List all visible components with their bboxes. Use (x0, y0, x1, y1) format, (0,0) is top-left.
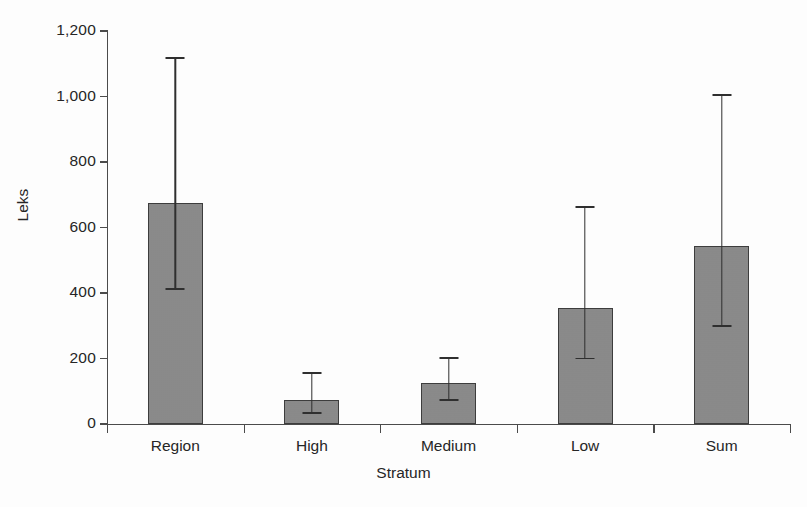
error-bar-cap-lower (302, 412, 321, 414)
y-axis-tick (100, 96, 108, 97)
x-axis-tick-label: Region (151, 437, 200, 455)
error-bar-stem (448, 358, 449, 400)
error-bar-cap-upper (302, 372, 321, 374)
x-axis-title: Stratum (0, 464, 807, 482)
error-bar-cap-lower (712, 325, 731, 327)
x-axis-tick (380, 424, 381, 433)
x-axis-tick (107, 424, 108, 433)
y-axis-tick (100, 292, 108, 293)
error-bar-cap-lower (166, 288, 185, 290)
error-bar-stem (721, 95, 722, 326)
x-axis-tick (244, 424, 245, 433)
y-axis-tick-label: 800 (18, 152, 96, 170)
y-axis-tick (100, 358, 108, 359)
y-axis-tick (100, 227, 108, 228)
y-axis-tick-label: 200 (18, 349, 96, 367)
error-bar-cap-lower (439, 399, 458, 401)
error-bar-cap-upper (439, 357, 458, 359)
y-axis-tick-label: 1,000 (18, 87, 96, 105)
x-axis-tick (790, 424, 791, 433)
error-bar-stem (311, 373, 312, 413)
x-axis-tick (517, 424, 518, 433)
x-axis-tick-label: Sum (706, 437, 738, 455)
error-bar-stem (175, 58, 176, 289)
y-axis-tick-label: 400 (18, 283, 96, 301)
y-axis-tick-label: 1,200 (18, 21, 96, 39)
bar-chart-figure: 02004006008001,0001,200 RegionHighMedium… (0, 0, 807, 507)
error-bar-cap-upper (576, 206, 595, 208)
y-axis-tick (100, 161, 108, 162)
x-axis-tick (653, 424, 654, 433)
error-bar-stem (584, 207, 585, 359)
error-bar-cap-lower (576, 358, 595, 360)
error-bar-cap-upper (166, 57, 185, 59)
y-axis-tick-label: 0 (18, 414, 96, 432)
y-axis-tick (100, 30, 108, 31)
x-axis-tick-label: Medium (421, 437, 476, 455)
y-axis-tick-labels: 02004006008001,0001,200 (14, 0, 96, 507)
x-axis-tick-label: Low (571, 437, 599, 455)
error-bar-cap-upper (712, 94, 731, 96)
y-axis-title: Leks (14, 175, 32, 235)
x-axis-tick-label: High (296, 437, 328, 455)
